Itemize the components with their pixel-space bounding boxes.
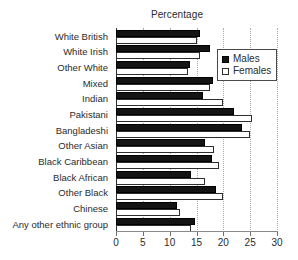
- bar-group: [116, 169, 277, 185]
- category-label: Chinese: [0, 204, 112, 214]
- bar-group: [116, 138, 277, 154]
- category-label: White British: [0, 32, 112, 42]
- filled-square-icon: [222, 56, 229, 63]
- bar-group: [116, 185, 277, 201]
- bar-male: [116, 77, 213, 84]
- bar-male: [116, 218, 195, 225]
- bar-group: [116, 201, 277, 217]
- bar-male: [116, 155, 212, 162]
- bar-group: [116, 216, 277, 232]
- bar-male: [116, 171, 191, 178]
- bar-female: [116, 146, 214, 153]
- legend-label-females: Females: [233, 66, 271, 76]
- category-label: Black Caribbean: [0, 157, 112, 167]
- bar-female: [116, 209, 180, 216]
- bar-male: [116, 45, 210, 52]
- category-label: Mixed: [0, 79, 112, 89]
- y-axis-category-labels: White BritishWhite IrishOther WhiteMixed…: [0, 28, 112, 232]
- bar-male: [116, 30, 200, 37]
- bar-male: [116, 139, 205, 146]
- bar-male: [116, 92, 203, 99]
- bar-male: [116, 202, 177, 209]
- bar-female: [116, 84, 210, 91]
- bar-group: [116, 28, 277, 44]
- category-label: Bangladeshi: [0, 126, 112, 136]
- category-label: Indian: [0, 94, 112, 104]
- x-tick-mark-15: [197, 232, 198, 236]
- bar-female: [116, 131, 250, 138]
- x-tick-mark-25: [250, 232, 251, 236]
- chart-title: Percentage: [0, 9, 298, 20]
- category-label: Other Asian: [0, 141, 112, 151]
- bar-female: [116, 99, 223, 106]
- bar-group: [116, 91, 277, 107]
- x-tick-mark-30: [277, 232, 278, 236]
- x-tick-label-10: 10: [164, 237, 175, 248]
- chart-legend: Males Females: [217, 49, 277, 81]
- x-tick-label-30: 30: [271, 237, 282, 248]
- x-tick-label-20: 20: [218, 237, 229, 248]
- x-tick-mark-0: [116, 232, 117, 236]
- bar-group: [116, 106, 277, 122]
- bar-female: [116, 193, 223, 200]
- bar-male: [116, 124, 242, 131]
- bar-female: [116, 68, 188, 75]
- category-label: Pakistani: [0, 110, 112, 120]
- x-tick-mark-20: [223, 232, 224, 236]
- category-label: Other Black: [0, 188, 112, 198]
- x-tick-label-25: 25: [245, 237, 256, 248]
- bar-group: [116, 154, 277, 170]
- bar-group: [116, 122, 277, 138]
- bar-female: [116, 162, 219, 169]
- x-tick-mark-10: [170, 232, 171, 236]
- x-tick-mark-5: [143, 232, 144, 236]
- bar-male: [116, 186, 216, 193]
- x-tick-label-15: 15: [191, 237, 202, 248]
- hollow-square-icon: [222, 68, 229, 75]
- category-label: White Irish: [0, 47, 112, 57]
- bar-chart: Percentage White BritishWhite IrishOther…: [0, 0, 298, 260]
- x-tick-label-0: 0: [113, 237, 119, 248]
- category-label: Any other ethnic group: [0, 220, 112, 230]
- legend-item-females: Females: [222, 65, 271, 77]
- bar-female: [116, 178, 205, 185]
- bar-female: [116, 52, 200, 59]
- bar-female: [116, 115, 252, 122]
- legend-label-males: Males: [233, 54, 260, 64]
- bar-male: [116, 108, 234, 115]
- category-label: Black African: [0, 173, 112, 183]
- x-tick-label-5: 5: [140, 237, 146, 248]
- category-label: Other White: [0, 63, 112, 73]
- bar-female: [116, 37, 197, 44]
- legend-item-males: Males: [222, 53, 271, 65]
- bar-male: [116, 61, 190, 68]
